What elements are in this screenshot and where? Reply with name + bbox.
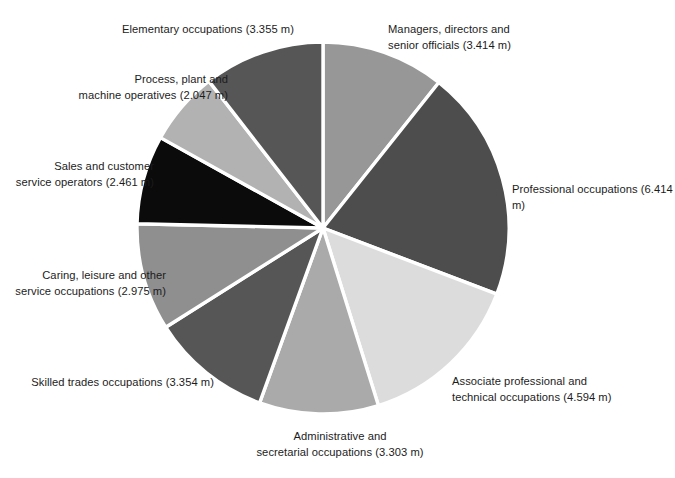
pie-label-associate: Associate professional and technical occ… bbox=[452, 374, 652, 405]
pie-label-elementary: Elementary occupations (3.355 m) bbox=[100, 22, 316, 38]
pie-label-sales: Sales and customer service operators (2.… bbox=[12, 159, 154, 190]
pie-label-professional: Professional occupations (6.414 m) bbox=[512, 182, 674, 213]
pie-label-skilled-trades: Skilled trades occupations (3.354 m) bbox=[30, 375, 214, 391]
pie-label-administrative: Administrative and secretarial occupatio… bbox=[248, 429, 432, 460]
pie-chart-figure: Elementary occupations (3.355 m) Manager… bbox=[0, 0, 675, 478]
pie-label-managers: Managers, directors and senior officials… bbox=[388, 22, 598, 53]
pie-label-caring: Caring, leisure and other service occupa… bbox=[6, 268, 166, 299]
pie-label-process-plant: Process, plant and machine operatives (2… bbox=[68, 72, 228, 103]
